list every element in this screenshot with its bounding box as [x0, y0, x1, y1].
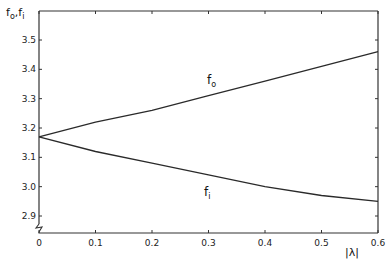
y-tick-label: 3.5 — [22, 35, 36, 45]
x-tick-label: 0.5 — [314, 238, 328, 248]
y-tick-label: 3.4 — [22, 64, 37, 74]
y-tick-label: 3.1 — [22, 152, 36, 162]
x-tick-label: 0.2 — [145, 238, 159, 248]
x-tick-label: 0.6 — [371, 238, 386, 248]
x-tick-label: 0.4 — [258, 238, 273, 248]
line-chart: 2.93.03.13.23.33.43.5 00.10.20.30.40.50.… — [0, 0, 390, 260]
plot-frame — [36, 11, 378, 233]
x-tick-label: 0.1 — [88, 238, 102, 248]
x-axis-ticks: 00.10.20.30.40.50.6 — [36, 11, 385, 248]
y-axis-title: fo,fi — [6, 6, 24, 21]
y-tick-label: 3.2 — [22, 123, 36, 133]
series-label-f-i: fi — [204, 185, 210, 201]
series-line-f-o — [39, 52, 378, 137]
y-tick-label: 3.3 — [22, 94, 36, 104]
y-tick-label: 3.0 — [22, 182, 37, 192]
series-label-f-o: fo — [207, 73, 216, 89]
x-tick-label: 0.3 — [201, 238, 215, 248]
x-tick-label: 0 — [36, 238, 42, 248]
x-axis-title: |λ| — [345, 246, 359, 259]
y-tick-label: 2.9 — [22, 211, 37, 221]
